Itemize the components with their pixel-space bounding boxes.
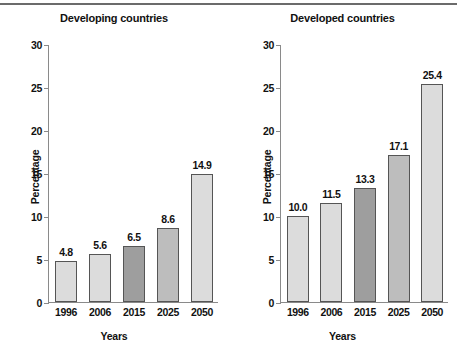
y-tick-label: 20 bbox=[31, 125, 42, 137]
x-tick-label: 1996 bbox=[287, 306, 309, 318]
bar bbox=[421, 84, 443, 302]
bar bbox=[287, 216, 309, 302]
bar-group-developed: 10.0199611.5200613.3201517.1202525.42050 bbox=[281, 44, 449, 302]
y-tick-label: 15 bbox=[31, 168, 42, 180]
bar-slot: 4.81996 bbox=[49, 44, 83, 302]
bar-slot: 5.62006 bbox=[83, 44, 117, 302]
y-tick-label: 0 bbox=[268, 297, 274, 309]
bar-slot: 10.01996 bbox=[281, 44, 315, 302]
plot-area-developed: 051015202530 10.0199611.5200613.3201517.… bbox=[280, 45, 448, 303]
bar-value-label: 17.1 bbox=[389, 140, 408, 152]
bar-value-label: 11.5 bbox=[322, 188, 340, 200]
bar-value-label: 4.8 bbox=[59, 246, 72, 258]
bar bbox=[320, 203, 342, 302]
bar-slot: 17.12025 bbox=[382, 44, 416, 302]
bar-value-label: 14.9 bbox=[193, 159, 212, 171]
bar-value-label: 10.0 bbox=[288, 201, 307, 213]
x-tick-label: 2050 bbox=[421, 306, 443, 318]
y-tick-label: 20 bbox=[263, 125, 274, 137]
y-tick-label: 5 bbox=[36, 254, 42, 266]
bar-slot: 14.92050 bbox=[185, 44, 219, 302]
bar-slot: 6.52015 bbox=[117, 44, 151, 302]
bar-slot: 13.32015 bbox=[348, 44, 382, 302]
y-tick-label: 30 bbox=[31, 39, 42, 51]
bar-slot: 8.62025 bbox=[151, 44, 185, 302]
bar-value-label: 25.4 bbox=[423, 69, 442, 81]
chart-panel-developed: Developed countries Percentage 051015202… bbox=[228, 0, 457, 354]
bar bbox=[191, 174, 213, 302]
bar bbox=[388, 155, 410, 302]
x-tick-label: 2025 bbox=[388, 306, 410, 318]
y-tick-label: 25 bbox=[263, 82, 274, 94]
x-tick-label: 1996 bbox=[55, 306, 77, 318]
x-tick-label: 2015 bbox=[123, 306, 145, 318]
x-tick-label: 2006 bbox=[321, 306, 343, 318]
bar-group-developing: 4.819965.620066.520158.6202514.92050 bbox=[49, 44, 219, 302]
plot-area-developing: 051015202530 4.819965.620066.520158.6202… bbox=[48, 45, 218, 303]
chart-panel-developing: Developing countries Percentage 05101520… bbox=[0, 0, 228, 354]
bar bbox=[123, 246, 145, 302]
x-axis-title-developing: Years bbox=[0, 330, 228, 342]
x-tick-label: 2015 bbox=[354, 306, 376, 318]
x-tick-label: 2025 bbox=[157, 306, 179, 318]
y-tick bbox=[276, 303, 281, 304]
chart-title-developed: Developed countries bbox=[228, 12, 457, 24]
bar-value-label: 13.3 bbox=[356, 173, 375, 185]
y-tick-label: 10 bbox=[263, 211, 274, 223]
y-tick-label: 0 bbox=[36, 297, 42, 309]
bar bbox=[55, 261, 77, 302]
y-tick-label: 5 bbox=[268, 254, 274, 266]
y-tick-label: 25 bbox=[31, 82, 42, 94]
chart-title-developing: Developing countries bbox=[0, 12, 228, 24]
y-tick-label: 15 bbox=[263, 168, 274, 180]
bar-slot: 11.52006 bbox=[314, 44, 348, 302]
x-axis-title-developed: Years bbox=[228, 330, 457, 342]
bar bbox=[354, 188, 376, 302]
y-tick bbox=[44, 303, 49, 304]
bar-value-label: 6.5 bbox=[127, 231, 140, 243]
x-tick-label: 2006 bbox=[89, 306, 111, 318]
x-axis-line bbox=[48, 302, 218, 303]
x-axis-line bbox=[280, 302, 448, 303]
bar bbox=[157, 228, 179, 302]
y-tick-label: 10 bbox=[31, 211, 42, 223]
bar-value-label: 5.6 bbox=[93, 239, 106, 251]
x-tick-label: 2050 bbox=[191, 306, 213, 318]
y-tick-label: 30 bbox=[263, 39, 274, 51]
bar bbox=[89, 254, 111, 302]
bar-value-label: 8.6 bbox=[161, 213, 174, 225]
bar-slot: 25.42050 bbox=[415, 44, 449, 302]
